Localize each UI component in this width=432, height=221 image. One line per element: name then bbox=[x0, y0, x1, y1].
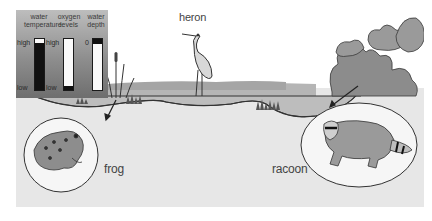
gauge-title-line: temperature bbox=[24, 21, 54, 29]
gauge-water-temperature-bar bbox=[34, 38, 45, 91]
gauge-low-label: low bbox=[17, 84, 28, 91]
gauge-title-line: oxygen bbox=[56, 13, 82, 21]
wetland-food-web-illustration: water temperature oxygen levels water de… bbox=[16, 0, 424, 207]
gauge-title-line: levels bbox=[56, 21, 82, 29]
gauge-panel: water temperature oxygen levels water de… bbox=[16, 10, 108, 98]
gauge-high-label: high bbox=[17, 39, 30, 46]
gauge-fill bbox=[93, 39, 102, 44]
gauge-oxygen-levels-title: oxygen levels bbox=[56, 13, 82, 29]
gauge-zero-label: 0 bbox=[85, 39, 89, 46]
frog-label: frog bbox=[104, 162, 124, 176]
gauge-oxygen-levels-bar bbox=[63, 38, 74, 91]
gauge-water-depth-title: water depth bbox=[84, 13, 108, 29]
gauge-title-line: water bbox=[24, 13, 54, 21]
gauge-title-line: water bbox=[84, 13, 108, 21]
gauge-low-label: low bbox=[46, 84, 57, 91]
gauge-water-temperature-title: water temperature bbox=[24, 13, 54, 29]
gauge-fill bbox=[35, 43, 44, 90]
gauge-fill bbox=[64, 86, 73, 90]
gauge-high-label: high bbox=[46, 39, 59, 46]
heron-label: heron bbox=[179, 11, 206, 23]
truncated-caption-strip bbox=[0, 214, 432, 221]
gauge-water-depth-bar bbox=[92, 38, 103, 91]
racoon-label: racoon bbox=[272, 162, 308, 176]
gauge-title-line: depth bbox=[84, 21, 108, 29]
